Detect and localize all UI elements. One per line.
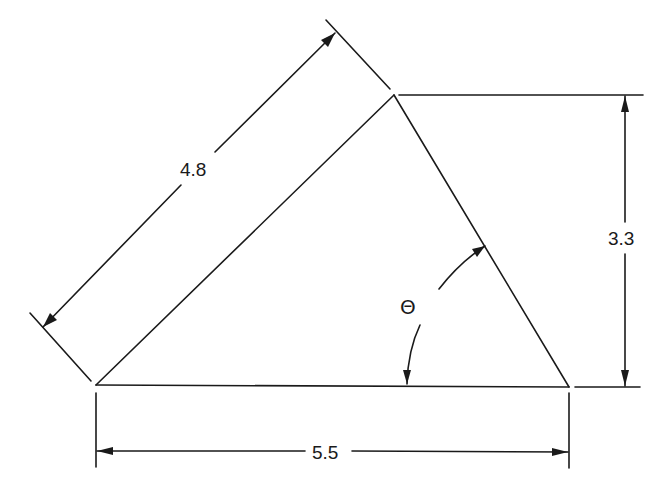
arrowhead-icon <box>552 448 568 456</box>
extension-line-upper <box>326 20 390 89</box>
triangle <box>96 95 569 387</box>
dimension-line-right <box>352 451 568 452</box>
dimension-line-upper <box>215 33 335 152</box>
height-label: 3.3 <box>608 228 634 249</box>
dimension-base: 5.5 <box>96 393 569 468</box>
arrowhead-icon <box>403 370 411 384</box>
triangle-diagram: 4.8 3.3 5.5 Θ <box>0 0 656 487</box>
dimension-height: 3.3 <box>399 95 643 387</box>
side-bc <box>394 95 569 387</box>
arrowhead-icon <box>621 96 629 112</box>
arrowhead-icon <box>97 447 113 455</box>
dimension-slant-side: 4.8 <box>30 20 390 381</box>
dimension-line-lower <box>43 185 181 327</box>
arrowhead-icon <box>472 246 485 257</box>
extension-line-lower <box>30 313 91 381</box>
theta-label: Θ <box>400 295 416 319</box>
slant-side-label: 4.8 <box>180 159 206 180</box>
angle-theta: Θ <box>400 246 485 384</box>
arrowhead-icon <box>621 370 629 386</box>
side-ab <box>96 95 394 385</box>
base-label: 5.5 <box>312 442 338 463</box>
side-ac-base <box>96 385 569 387</box>
